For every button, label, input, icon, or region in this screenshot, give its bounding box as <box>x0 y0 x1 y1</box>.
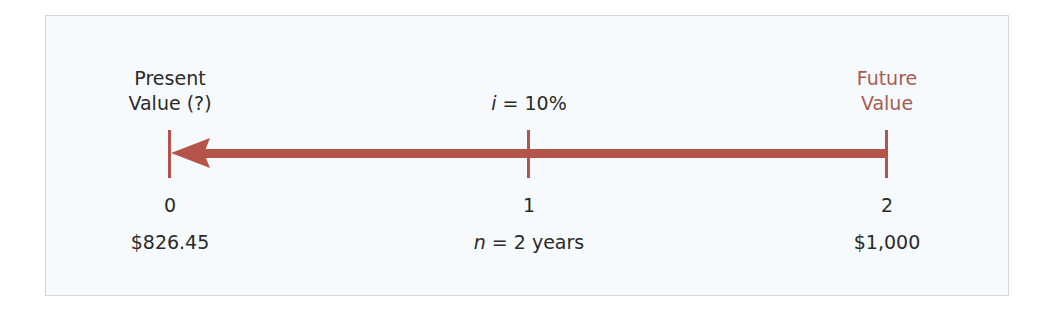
number-of-periods-label: n = 2 years <box>474 230 584 255</box>
tick-period-2 <box>885 130 888 178</box>
future-value-line1: Future <box>857 66 918 91</box>
tick-period-0 <box>168 130 171 178</box>
period-1-tick-label: 1 <box>523 193 535 218</box>
future-value-amount: $1,000 <box>854 230 920 255</box>
rate-value: = 10% <box>497 92 567 114</box>
interest-rate-label: i = 10% <box>491 91 567 116</box>
period-0-tick-label: 0 <box>164 193 176 218</box>
present-value-line2: Value (?) <box>128 91 211 116</box>
period-2-tick-label: 2 <box>881 193 893 218</box>
periods-value: = 2 years <box>486 231 584 253</box>
future-value-line2: Value <box>857 91 918 116</box>
present-value-line1: Present <box>128 66 211 91</box>
timeline-diagram <box>0 0 1055 316</box>
future-value-label: Future Value <box>857 66 918 116</box>
present-value-amount: $826.45 <box>131 230 210 255</box>
present-value-label: Present Value (?) <box>128 66 211 116</box>
timeline-arrow-shaft <box>200 149 886 158</box>
tick-period-1 <box>527 130 530 178</box>
periods-variable: n <box>474 231 486 253</box>
